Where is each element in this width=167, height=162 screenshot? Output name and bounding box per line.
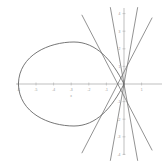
x-axis-label: x xyxy=(70,94,72,98)
y-tick-label: 3 xyxy=(119,30,121,34)
y-tick-label: -3 xyxy=(117,135,120,139)
chart-background xyxy=(0,0,167,162)
y-tick-label: 4 xyxy=(119,12,121,16)
chart-svg: -6 -5 -4 -3 -2 -1 1 4 3 2 1 -1 -2 -3 -4 … xyxy=(0,0,167,162)
y-tick-label: 2 xyxy=(119,47,121,51)
chart-plot-area: -6 -5 -4 -3 -2 -1 1 4 3 2 1 -1 -2 -3 -4 … xyxy=(0,0,167,162)
x-tick-label: 1 xyxy=(141,88,143,92)
x-tick-label: -5 xyxy=(34,88,37,92)
x-tick-label: -4 xyxy=(52,88,55,92)
x-tick-label: -3 xyxy=(70,88,73,92)
y-tick-label: -1 xyxy=(117,100,120,104)
x-tick-label: -2 xyxy=(87,88,90,92)
x-tick-label: -1 xyxy=(105,88,108,92)
y-tick-label: -4 xyxy=(117,153,120,157)
